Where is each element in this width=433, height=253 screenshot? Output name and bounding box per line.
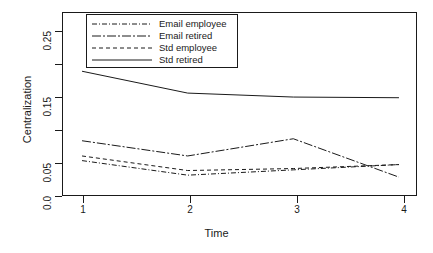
y-tick-label-1: 0.05 [43, 163, 53, 223]
x-tick-label-0: 1 [68, 205, 98, 215]
y-tick-mark-3 [55, 97, 62, 98]
legend-key-line-icon-std-retired [91, 54, 153, 66]
series-line-std-retired [82, 71, 399, 97]
x-tick-mark-0 [83, 196, 84, 203]
legend-entry-email-employee: Email employee [87, 18, 237, 30]
legend-label-std-retired: Std retired [159, 55, 203, 65]
x-tick-label-3: 4 [389, 205, 419, 215]
legend-entry-email-retired: Email retired [87, 30, 237, 42]
data-series-group [82, 71, 399, 177]
x-tick-mark-1 [190, 196, 191, 203]
legend-label-email-employee: Email employee [159, 19, 227, 29]
legend-label-email-retired: Email retired [159, 31, 212, 41]
x-tick-mark-3 [404, 196, 405, 203]
y-axis-title: Centralization [22, 45, 33, 175]
legend-key-line-icon-email-employee [91, 18, 153, 30]
x-tick-label-1: 2 [175, 205, 205, 215]
series-line-std-employee [82, 156, 399, 171]
y-tick-mark-0 [55, 196, 62, 197]
y-tick-mark-2 [55, 130, 62, 131]
y-tick-mark-5 [55, 31, 62, 32]
y-tick-label-2: 0.15 [43, 97, 53, 157]
legend-label-std-employee: Std employee [159, 43, 217, 53]
x-tick-mark-2 [297, 196, 298, 203]
x-tick-label-2: 3 [282, 205, 312, 215]
chart-figure: 0.0 0.05 0.15 0.25 1 2 3 4 Centralizatio… [0, 0, 433, 253]
legend-key-line-icon-std-employee [91, 42, 153, 54]
y-tick-label-3: 0.25 [43, 31, 53, 91]
legend-entry-std-employee: Std employee [87, 42, 237, 54]
series-line-email-employee [82, 161, 399, 176]
y-tick-mark-4 [55, 64, 62, 65]
chart-legend: Email employee Email retired Std employe… [86, 14, 238, 68]
series-line-email-retired [82, 139, 399, 177]
legend-entry-std-retired: Std retired [87, 54, 237, 66]
x-axis-title: Time [0, 228, 433, 239]
legend-key-line-icon-email-retired [91, 30, 153, 42]
y-tick-mark-1 [55, 163, 62, 164]
